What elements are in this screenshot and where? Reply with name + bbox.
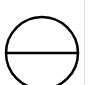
theta-symbol-icon — [0, 0, 88, 85]
circle-outline — [6, 17, 78, 85]
right-border-line — [84, 0, 85, 85]
